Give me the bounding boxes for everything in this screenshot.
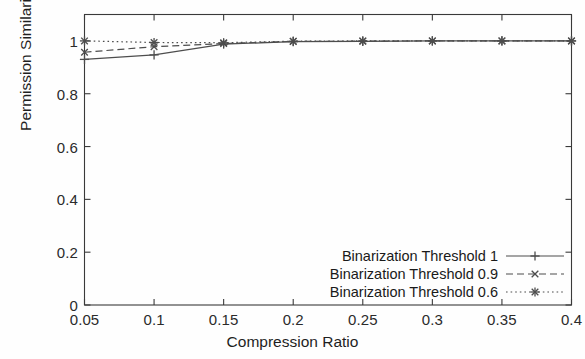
x-tick-label: 0.15 — [209, 311, 239, 328]
y-axis-title: Permission Similarity — [17, 0, 35, 169]
plot-canvas — [0, 0, 585, 359]
x-tick-label: 0.2 — [283, 311, 304, 328]
y-tick-label: 0.2 — [34, 244, 78, 261]
chart-figure: 10.80.60.40.20 0.050.10.150.20.250.30.35… — [0, 0, 585, 359]
legend-label: Binarization Threshold 0.6 — [330, 284, 498, 300]
legend-line-sample — [504, 266, 566, 282]
legend-label: Binarization Threshold 1 — [342, 248, 498, 264]
legend-line-sample — [504, 248, 566, 264]
x-tick-label: 0.25 — [348, 311, 378, 328]
series-layer — [80, 36, 576, 64]
legend-label: Binarization Threshold 0.9 — [330, 266, 498, 282]
legend-entry: Binarization Threshold 0.9 — [318, 265, 566, 283]
y-tick-label: 0.4 — [34, 191, 78, 208]
x-tick-label: 0.3 — [422, 311, 443, 328]
x-tick-label: 0.35 — [487, 311, 517, 328]
legend-entry: Binarization Threshold 0.6 — [318, 283, 566, 301]
y-tick-label: 0.6 — [34, 138, 78, 155]
chart-legend: Binarization Threshold 1Binarization Thr… — [318, 247, 566, 301]
y-tick-label: 0.8 — [34, 85, 78, 102]
x-tick-label: 0.05 — [70, 311, 100, 328]
x-tick-label: 0.1 — [143, 311, 164, 328]
x-tick-label: 0.4 — [561, 311, 582, 328]
y-tick-label: 1 — [34, 32, 78, 49]
legend-line-sample — [504, 284, 566, 300]
x-axis-title: Compression Ratio — [0, 333, 585, 351]
legend-entry: Binarization Threshold 1 — [318, 247, 566, 265]
